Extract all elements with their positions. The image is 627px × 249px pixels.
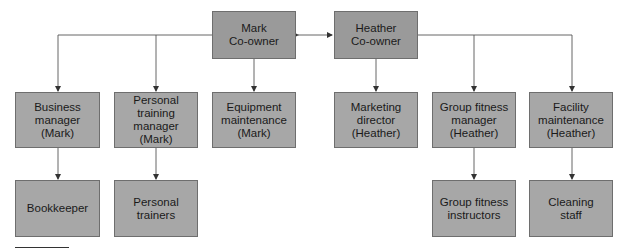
mark-co-owner-label: Mark Co-owner	[229, 22, 279, 48]
heather-co-owner-box: Heather Co-owner	[334, 11, 418, 59]
equipment-maintenance-box: Equipment maintenance (Mark)	[212, 92, 296, 148]
business-manager-label: Business manager (Mark)	[34, 101, 81, 140]
group-fitness-manager-box: Group fitness manager (Heather)	[432, 92, 516, 148]
facility-maintenance-label: Facility maintenance (Heather)	[538, 101, 604, 140]
heather-co-owner-label: Heather Co-owner	[351, 22, 401, 48]
facility-maintenance-box: Facility maintenance (Heather)	[529, 92, 613, 148]
cleaning-staff-label: Cleaning staff	[548, 196, 593, 222]
marketing-director-box: Marketing director (Heather)	[334, 92, 418, 148]
business-manager-box: Business manager (Mark)	[15, 92, 100, 148]
equipment-maintenance-label: Equipment maintenance (Mark)	[221, 101, 287, 140]
personal-trainers-box: Personal trainers	[114, 180, 198, 237]
cleaning-staff-box: Cleaning staff	[529, 180, 613, 237]
personal-training-manager-box: Personal training manager (Mark)	[114, 92, 198, 148]
bookkeeper-box: Bookkeeper	[15, 180, 100, 237]
personal-trainers-label: Personal trainers	[133, 196, 178, 222]
group-fitness-instructors-box: Group fitness instructors	[432, 180, 516, 237]
marketing-director-label: Marketing director (Heather)	[351, 101, 402, 140]
group-fitness-instructors-label: Group fitness instructors	[440, 196, 508, 222]
bookkeeper-label: Bookkeeper	[27, 202, 88, 215]
group-fitness-manager-label: Group fitness manager (Heather)	[440, 101, 508, 140]
mark-co-owner-box: Mark Co-owner	[212, 11, 296, 59]
footnote-rule	[15, 247, 69, 248]
personal-training-manager-label: Personal training manager (Mark)	[115, 94, 197, 146]
